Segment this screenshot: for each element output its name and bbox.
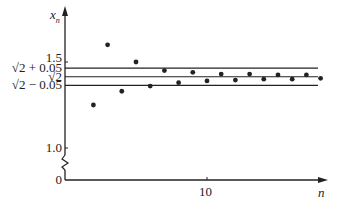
sequence-chart — [0, 0, 342, 202]
axes — [62, 6, 328, 183]
data-point — [247, 72, 252, 77]
y-tick-label: 0 — [56, 173, 63, 186]
data-point — [162, 68, 167, 73]
y-tick-label: 1.0 — [46, 141, 62, 154]
y-tick-label: 1.5 — [46, 51, 62, 64]
data-point — [148, 84, 153, 89]
y-axis-label: xn — [50, 8, 60, 25]
y-arrow-icon — [62, 6, 68, 16]
data-point — [318, 76, 323, 81]
data-point — [176, 80, 181, 85]
data-point — [261, 77, 266, 82]
data-point — [91, 103, 96, 108]
data-point — [134, 60, 139, 65]
reference-line-label: √2 − 0.05 — [12, 78, 62, 91]
data-points — [77, 0, 323, 107]
data-point — [119, 89, 124, 94]
data-point — [105, 42, 110, 47]
x-arrow-icon — [318, 177, 328, 183]
x-axis-label: n — [318, 186, 325, 199]
data-point — [290, 77, 295, 82]
data-point — [233, 78, 238, 83]
axis-break-icon — [62, 155, 68, 170]
data-point — [276, 73, 281, 78]
data-point — [219, 72, 224, 77]
y-axis-label-sub: n — [56, 16, 60, 25]
data-point — [205, 79, 210, 84]
data-point — [304, 73, 309, 78]
data-point — [190, 70, 195, 75]
x-tick-label: 10 — [199, 185, 212, 198]
